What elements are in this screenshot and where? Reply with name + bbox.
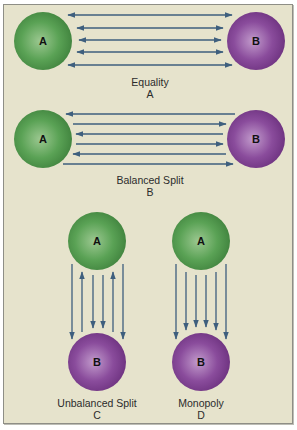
node-b-label: B	[93, 356, 101, 368]
panel-title: Balanced Split	[90, 174, 210, 186]
panel-title: Equality	[100, 76, 200, 88]
panel-d-arrows	[176, 264, 226, 339]
node-a-label: A	[39, 133, 47, 145]
panel-letter: A	[100, 88, 200, 100]
caption-panel-b: Balanced Split B	[90, 174, 210, 198]
panel-b-arrows	[63, 114, 235, 164]
node-a-label: A	[93, 235, 101, 247]
node-b-label: B	[197, 356, 205, 368]
power-relationship-diagram: A B A B A B	[0, 0, 297, 430]
panel-monopoly: A B	[172, 212, 230, 391]
node-b-label: B	[252, 133, 260, 145]
caption-panel-c: Unbalanced Split C	[42, 397, 152, 421]
node-b-label: B	[252, 35, 260, 47]
panel-title: Monopoly	[156, 397, 246, 409]
node-a-label: A	[39, 35, 47, 47]
panel-balanced-split: A B	[14, 110, 285, 168]
panel-unbalanced-split: A B	[68, 212, 126, 391]
panel-letter: C	[42, 409, 152, 421]
caption-panel-a: Equality A	[100, 76, 200, 100]
panel-letter: D	[156, 409, 246, 421]
panel-title: Unbalanced Split	[42, 397, 152, 409]
panel-c-arrows	[72, 264, 123, 339]
caption-panel-d: Monopoly D	[156, 397, 246, 421]
node-a-label: A	[197, 235, 205, 247]
panel-letter: B	[90, 186, 210, 198]
panel-equality: A B	[14, 12, 285, 70]
panel-a-arrows	[68, 15, 232, 65]
